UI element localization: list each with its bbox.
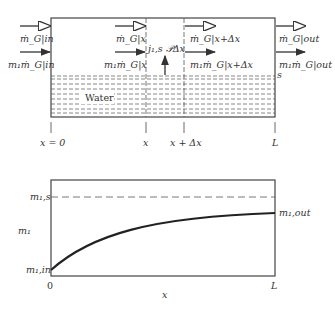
x-axis-label: x [162, 289, 168, 300]
xdx-flow-label: ṁ_G|x+Δx [190, 33, 241, 45]
outlet-species-label: m₁ṁ_G|out [279, 59, 332, 71]
surface-label: s [277, 69, 282, 80]
pos-x0: x = 0 [40, 137, 65, 148]
plot-frame [51, 180, 275, 276]
x-species-label: m₁ṁ_G|x [104, 59, 147, 71]
x-tick-0: 0 [47, 280, 53, 291]
m1-curve [51, 213, 275, 270]
m1in-label: m₁,in [26, 264, 51, 275]
pos-xdx: x + Δx [170, 137, 202, 148]
m1out-label: m₁,out [279, 207, 311, 218]
pos-x: x [143, 137, 149, 148]
xdx-species-label: m₁ṁ_G|x+Δx [190, 59, 254, 71]
y-axis-label: m₁ [18, 225, 31, 236]
x-flow-label: ṁ_G|x [116, 33, 147, 45]
outlet-flow-label: ṁ_G|out [279, 33, 319, 45]
inlet-species-label: m₁ṁ_G|in [8, 59, 55, 71]
inlet-flow-label: ṁ_G|in [20, 33, 54, 45]
water-label: Water [85, 92, 114, 103]
pos-L: L [271, 137, 278, 148]
flux-label: j₁,s 𝒫Δx [146, 43, 186, 54]
x-tick-L: L [270, 280, 277, 291]
m1s-label: m₁,s [30, 191, 51, 202]
diagram-canvas: ṁ_G|in m₁ṁ_G|in ṁ_G|x m₁ṁ_G|x j₁,s 𝒫Δx ṁ… [0, 0, 335, 312]
position-ticks [51, 122, 275, 133]
